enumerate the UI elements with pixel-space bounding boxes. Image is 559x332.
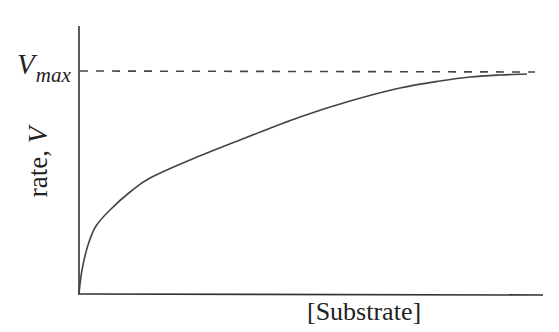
x-axis-label: [Substrate] — [307, 297, 421, 327]
vmax-asymptote-line — [80, 71, 535, 72]
x-axis — [78, 294, 543, 295]
vmax-label-subscript: max — [36, 63, 71, 87]
y-axis-label-prefix: rate, — [23, 143, 53, 197]
y-axis-label: rate, V — [23, 127, 54, 197]
vmax-label-main: V — [17, 48, 35, 80]
y-axis-label-variable: V — [23, 127, 53, 144]
vmax-label: Vmax — [17, 50, 71, 79]
chart-canvas — [0, 0, 559, 332]
michaelis-menten-curve — [79, 74, 527, 293]
